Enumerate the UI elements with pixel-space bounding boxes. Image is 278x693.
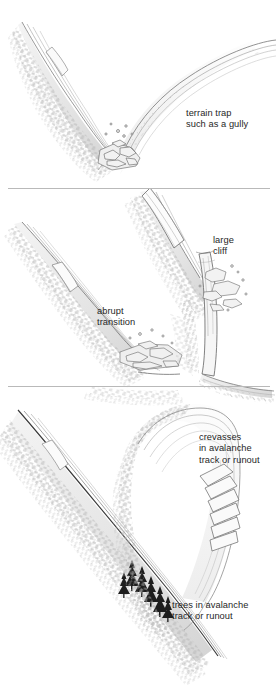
- abrupt-transition-label: abrupt transition: [97, 306, 135, 329]
- avalanche-terrain-figure: terrain trap such as a gully large cliff…: [0, 0, 278, 693]
- upper-slope-toe: [84, 386, 184, 405]
- trees-label: trees in avalanche track or runout: [172, 600, 248, 623]
- terrain-trap-label: terrain trap such as a gully: [186, 108, 248, 131]
- crevasses-label: crevasses in avalanche track or runout: [199, 432, 260, 466]
- divider-lower: [8, 386, 270, 387]
- panel-gully-art: [8, 22, 276, 182]
- transition-rock-debris: [120, 329, 182, 370]
- long-avalanche-slope: [0, 410, 227, 686]
- panel-crevasses-trees-art: [0, 386, 240, 686]
- terrain-illustration: [0, 0, 278, 693]
- large-cliff-label: large cliff: [213, 235, 234, 258]
- gully-right-wall: [118, 40, 276, 174]
- panel-transition-art: [4, 188, 275, 404]
- divider-upper: [8, 188, 270, 189]
